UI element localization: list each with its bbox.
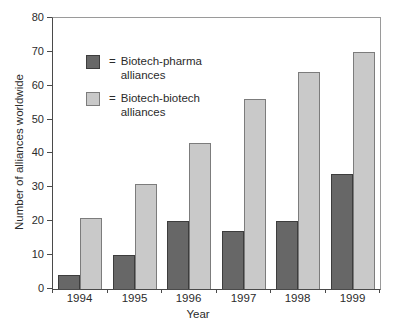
y-tick-50	[47, 119, 52, 120]
y-tick-label-60: 60	[16, 79, 44, 92]
bar-biotech-biotech-alliances-1995	[135, 184, 157, 289]
legend-label: Biotech-pharma alliances	[121, 54, 231, 82]
y-tick-20	[47, 220, 52, 221]
legend-equals-sign: =	[109, 54, 116, 68]
y-tick-10	[47, 254, 52, 255]
legend-swatch	[86, 55, 100, 69]
legend-label: Biotech-biotech alliances	[121, 91, 231, 119]
bar-biotech-pharma-alliances-1999	[331, 174, 353, 289]
x-category-label-1997: 1997	[216, 292, 271, 305]
y-tick-label-80: 80	[16, 11, 44, 24]
x-category-label-1996: 1996	[161, 292, 216, 305]
bar-biotech-biotech-alliances-1998	[298, 72, 320, 289]
plot-area: =Biotech-pharma alliances=Biotech-biotec…	[52, 17, 381, 290]
y-tick-80	[47, 17, 52, 18]
legend: =Biotech-pharma alliances=Biotech-biotec…	[86, 54, 231, 128]
bar-biotech-biotech-alliances-1996	[189, 143, 211, 289]
bar-biotech-biotech-alliances-1997	[244, 99, 266, 289]
alliances-bar-chart: Number of alliances worldwide =Biotech-p…	[0, 0, 396, 332]
y-tick-label-40: 40	[16, 146, 44, 159]
x-category-label-1999: 1999	[325, 292, 380, 305]
legend-swatch	[86, 92, 100, 106]
legend-entry: =Biotech-pharma alliances	[86, 54, 231, 82]
y-tick-label-70: 70	[16, 45, 44, 58]
bar-biotech-pharma-alliances-1994	[58, 275, 80, 289]
bar-biotech-pharma-alliances-1995	[113, 255, 135, 289]
x-axis-title: Year	[0, 308, 396, 320]
y-tick-label-50: 50	[16, 113, 44, 126]
bar-biotech-biotech-alliances-1994	[80, 218, 102, 289]
bar-biotech-pharma-alliances-1997	[222, 231, 244, 289]
bar-biotech-pharma-alliances-1998	[276, 221, 298, 289]
y-tick-label-20: 20	[16, 214, 44, 227]
y-tick-label-30: 30	[16, 180, 44, 193]
legend-entry: =Biotech-biotech alliances	[86, 91, 231, 119]
x-category-label-1994: 1994	[52, 292, 107, 305]
y-tick-70	[47, 51, 52, 52]
x-category-label-1998: 1998	[270, 292, 325, 305]
legend-equals-sign: =	[109, 91, 116, 105]
y-tick-60	[47, 85, 52, 86]
y-tick-40	[47, 152, 52, 153]
y-tick-30	[47, 186, 52, 187]
bar-biotech-biotech-alliances-1999	[353, 52, 375, 289]
bar-biotech-pharma-alliances-1996	[167, 221, 189, 289]
y-tick-label-0: 0	[16, 282, 44, 295]
x-category-label-1995: 1995	[107, 292, 162, 305]
y-tick-label-10: 10	[16, 248, 44, 261]
